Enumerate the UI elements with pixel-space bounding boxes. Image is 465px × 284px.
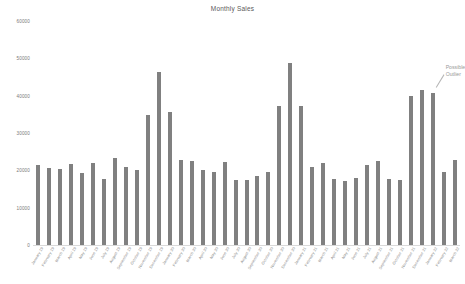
x-axis-tick-label: June 19 — [88, 246, 99, 261]
plot-area — [33, 21, 460, 245]
bar — [124, 167, 128, 245]
bar — [58, 169, 62, 245]
bar — [102, 179, 106, 245]
bar — [354, 178, 358, 245]
bar — [179, 160, 183, 245]
bar — [420, 90, 424, 245]
bar — [47, 168, 51, 245]
x-axis-tick-label: April 21 — [329, 246, 340, 260]
y-axis-tick-label: 20000 — [16, 168, 30, 173]
bar — [409, 96, 413, 245]
bar — [201, 170, 205, 245]
y-axis: 0100002000030000400005000060000 — [0, 0, 33, 284]
bar — [255, 176, 259, 245]
bar — [321, 163, 325, 245]
bar-series — [33, 21, 460, 245]
chart-title: Monthly Sales — [0, 5, 465, 12]
bar — [146, 115, 150, 245]
outlier-annotation-line2: Outlier — [446, 71, 465, 78]
bar — [266, 172, 270, 245]
bar — [113, 158, 117, 245]
bar — [453, 160, 457, 245]
bar — [431, 93, 435, 245]
bar — [277, 106, 281, 245]
outlier-annotation: Possible Outlier — [446, 64, 465, 78]
x-axis-tick-label: July 19 — [99, 246, 110, 259]
bar — [135, 170, 139, 245]
x-axis-tick-label: June 20 — [219, 246, 230, 261]
bar — [190, 161, 194, 245]
y-axis-tick-label: 40000 — [16, 93, 30, 98]
y-axis-tick-label: 30000 — [16, 131, 30, 136]
bar — [310, 167, 314, 245]
bar — [288, 63, 292, 245]
bar — [376, 161, 380, 245]
monthly-sales-chart: Monthly Sales 01000020000300004000050000… — [0, 0, 465, 284]
bar — [223, 162, 227, 245]
x-axis-tick-label: March 22 — [448, 246, 461, 263]
y-axis-tick-label: 60000 — [16, 19, 30, 24]
x-axis-tick-label: March 19 — [54, 246, 67, 263]
bar — [69, 164, 73, 245]
bar — [157, 72, 161, 245]
bar — [387, 179, 391, 245]
x-axis-tick-label: July 20 — [231, 246, 242, 259]
bar — [332, 179, 336, 245]
y-axis-tick-label: 0 — [27, 243, 30, 248]
x-axis-tick-label: April 19 — [66, 246, 77, 260]
bar — [343, 181, 347, 245]
bar — [234, 180, 238, 245]
x-axis-tick-label: April 20 — [197, 246, 208, 260]
x-axis-tick-label: June 21 — [350, 246, 361, 261]
bar — [36, 165, 40, 245]
y-axis-tick-label: 50000 — [16, 56, 30, 61]
bar — [398, 180, 402, 245]
bar — [365, 165, 369, 245]
x-axis-tick-label: May 19 — [77, 246, 88, 260]
bar — [245, 180, 249, 245]
bar — [212, 172, 216, 245]
bar — [91, 163, 95, 245]
outlier-annotation-line1: Possible — [446, 64, 465, 71]
x-axis-labels: January 19February 19March 19April 19May… — [33, 246, 460, 284]
y-axis-tick-label: 10000 — [16, 205, 30, 210]
bar — [80, 173, 84, 245]
bar — [168, 112, 172, 245]
bar — [299, 106, 303, 245]
x-axis-tick-label: March 20 — [185, 246, 198, 263]
bar — [442, 172, 446, 245]
